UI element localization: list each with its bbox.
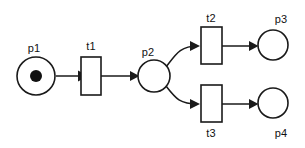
arc-t2-to-p3	[222, 41, 259, 51]
place-label: p2	[142, 46, 155, 58]
arc-t3-to-p4	[222, 99, 259, 109]
transition-rect[interactable]	[81, 57, 101, 95]
token-dot	[30, 70, 42, 82]
place-label: p1	[28, 42, 41, 54]
transition-label: t3	[206, 127, 216, 139]
place-label: p3	[275, 13, 288, 25]
place-p3[interactable]: p3	[258, 13, 288, 60]
arc-t1-to-p2	[101, 71, 140, 81]
place-circle[interactable]	[258, 30, 288, 60]
transition-rect[interactable]	[201, 85, 222, 122]
arrow-head-icon	[249, 41, 259, 51]
place-p4[interactable]: p4	[258, 88, 288, 139]
transition-rect[interactable]	[201, 27, 222, 64]
transition-t2[interactable]: t2	[201, 12, 222, 64]
arrow-head-icon	[190, 41, 200, 51]
transition-label: t2	[206, 12, 216, 24]
place-p1[interactable]: p1	[17, 42, 55, 95]
transition-t1[interactable]: t1	[81, 40, 101, 95]
petri-net-canvas: p1 p2 p3 p4 t1 t2	[0, 0, 305, 148]
transition-t3[interactable]: t3	[201, 85, 222, 139]
place-circle[interactable]	[258, 88, 288, 118]
petri-net-diagram: p1 p2 p3 p4 t1 t2	[0, 0, 305, 148]
arc-p2-to-t2	[166, 41, 200, 67]
place-label: p4	[275, 127, 288, 139]
transition-label: t1	[86, 40, 96, 52]
arrow-head-icon	[190, 99, 200, 109]
arc-p2-to-t3	[166, 86, 200, 109]
place-p2[interactable]: p2	[138, 46, 170, 92]
place-circle[interactable]	[138, 60, 170, 92]
arrow-head-icon	[249, 99, 259, 109]
